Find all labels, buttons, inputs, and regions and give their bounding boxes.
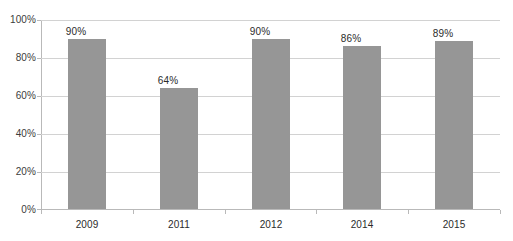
- y-tick-label-60: 60%: [0, 91, 36, 101]
- bar-value-label-2009: 90%: [49, 26, 103, 37]
- y-tick-label-80: 80%: [0, 53, 36, 63]
- bar-2014: [343, 46, 381, 209]
- bar-2011: [160, 88, 198, 209]
- bar-2009: [68, 39, 106, 209]
- bar-2015: [435, 41, 473, 209]
- y-tick-label-0: 0%: [0, 205, 36, 215]
- x-cat-label-2012: 2012: [233, 219, 309, 230]
- x-tick-mark-3: [316, 210, 317, 214]
- bar-2012: [252, 39, 290, 209]
- x-cat-label-2011: 2011: [141, 219, 217, 230]
- x-tick-mark-5: [500, 210, 501, 214]
- x-tick-mark-1: [133, 210, 134, 214]
- bar-value-label-2012: 90%: [233, 26, 287, 37]
- x-cat-label-2014: 2014: [324, 219, 400, 230]
- bar-value-label-2015: 89%: [416, 28, 470, 39]
- x-cat-label-2015: 2015: [416, 219, 492, 230]
- plot-area: [41, 20, 500, 209]
- bar-value-label-2014: 86%: [324, 33, 378, 44]
- y-axis-tick-labels: 100% 80% 60% 40% 20% 0%: [0, 0, 36, 241]
- bar-value-label-2011: 64%: [141, 75, 195, 86]
- x-cat-label-2009: 2009: [49, 219, 125, 230]
- y-tick-label-20: 20%: [0, 167, 36, 177]
- y-tick-label-40: 40%: [0, 129, 36, 139]
- x-tick-mark-2: [225, 210, 226, 214]
- gridline-0-baseline: [41, 209, 500, 210]
- bar-chart: 100% 80% 60% 40% 20% 0% 90% 64% 90%: [0, 0, 513, 241]
- x-tick-mark-4: [408, 210, 409, 214]
- gridline-100: [41, 20, 500, 21]
- y-tick-label-100: 100%: [0, 15, 36, 25]
- x-tick-mark-0: [41, 210, 42, 214]
